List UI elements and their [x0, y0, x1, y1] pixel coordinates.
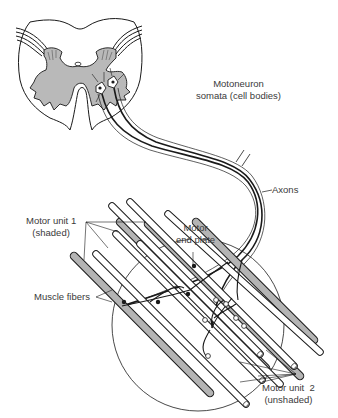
- motor-unit-1-label: Motor unit 1 (shaded): [26, 215, 76, 239]
- axons: [98, 88, 265, 330]
- motor-end-plate-label: Motor end plate: [176, 222, 215, 246]
- motoneuron-label-line1: Motoneuron: [196, 78, 281, 90]
- motor-unit-1-label-line1: Motor unit 1: [26, 215, 76, 227]
- motor-end-plate-label-line2: end plate: [176, 234, 215, 246]
- motor-unit-2-label: Motor unit 2 (unshaded): [262, 382, 315, 406]
- central-canal: [75, 62, 81, 66]
- motoneuron-label-line2: somata (cell bodies): [196, 90, 281, 102]
- axons-label-line1: Axons: [272, 184, 298, 196]
- muscle-fibers-label: Muscle fibers: [34, 291, 90, 303]
- motoneuron-label: Motoneuron somata (cell bodies): [196, 78, 281, 102]
- axons-label: Axons: [272, 184, 298, 196]
- motor-unit-1-label-line2: (shaded): [26, 227, 76, 239]
- motor-end-plate-label-line1: Motor: [176, 222, 215, 234]
- motor-unit-diagram: Motoneuron somata (cell bodies) Axons Mo…: [0, 0, 338, 418]
- motor-unit-2-label-line1: Motor unit 2: [262, 382, 315, 394]
- muscle-fibers-label-line1: Muscle fibers: [34, 291, 90, 303]
- motor-unit-2-label-line2: (unshaded): [262, 394, 315, 406]
